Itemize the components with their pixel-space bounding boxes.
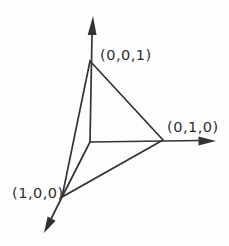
point-label-010: (0,1,0)	[167, 119, 219, 135]
point-label-100: (1,0,0)	[12, 185, 64, 201]
y-axis-line	[90, 141, 201, 143]
point-label-001: (0,0,1)	[100, 47, 152, 63]
y-axis-arrowhead	[199, 137, 217, 146]
x-axis-arrowhead	[44, 217, 56, 234]
simplex-triangle	[62, 61, 163, 197]
z-axis-line	[90, 35, 92, 142]
z-axis-arrowhead	[88, 16, 97, 35]
simplex-figure: (0,0,1) (0,1,0) (1,0,0)	[0, 0, 229, 246]
simplex-diagram: (0,0,1) (0,1,0) (1,0,0)	[0, 0, 229, 246]
